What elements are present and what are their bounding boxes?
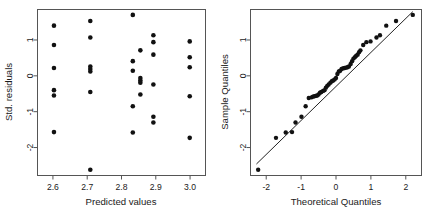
qq-data-point <box>394 19 398 23</box>
qq-y-axis-title: Sample Quantiles <box>219 54 230 130</box>
residuals-data-point <box>151 40 156 45</box>
qq-plot-svg: 10-1-2 -2-1012 Theoretical Quantiles Sam… <box>216 0 432 216</box>
qq-data-points <box>256 13 415 172</box>
qq-plot-frame <box>251 10 422 176</box>
qq-data-point <box>290 130 294 134</box>
residuals-data-point <box>131 104 136 109</box>
residuals-data-point <box>52 23 57 28</box>
residuals-data-point <box>88 35 93 40</box>
residuals-data-point <box>187 55 192 60</box>
residuals-plot-svg: 10-1-2 2.62.72.82.93.0 Predicted values … <box>0 0 216 216</box>
residuals-data-point <box>138 92 143 97</box>
qq-y-axis-ticks: 10-1-2 <box>239 37 251 151</box>
figure-canvas: 10-1-2 2.62.72.82.93.0 Predicted values … <box>0 0 432 216</box>
residuals-data-point <box>151 120 156 125</box>
qq-y-tick-label: -1 <box>239 108 249 116</box>
residuals-x-axis-ticks: 2.62.72.82.93.0 <box>47 176 196 192</box>
residuals-data-point <box>151 82 156 87</box>
residuals-y-tick-label: 1 <box>26 37 36 42</box>
residuals-data-point <box>52 93 57 98</box>
qq-x-tick-label: 0 <box>334 182 339 192</box>
residuals-data-point <box>187 94 192 99</box>
residuals-y-tick-label: -2 <box>26 144 36 152</box>
qq-data-point <box>299 115 303 119</box>
residuals-data-point <box>138 48 143 53</box>
qq-x-axis-ticks: -2-1012 <box>262 176 408 192</box>
residuals-data-point <box>52 43 57 48</box>
residuals-data-point <box>187 39 192 44</box>
qq-data-point <box>364 40 368 44</box>
residuals-data-point <box>131 69 136 74</box>
residuals-data-point <box>52 66 57 71</box>
qq-x-tick-label: -1 <box>297 182 305 192</box>
panel-residuals-vs-fitted: 10-1-2 2.62.72.82.93.0 Predicted values … <box>0 0 216 216</box>
residuals-data-point <box>131 13 136 18</box>
qq-reference-line <box>256 12 412 164</box>
qq-y-tick-label: 0 <box>239 73 249 78</box>
qq-data-point <box>334 76 338 80</box>
qq-y-tick-label: 1 <box>239 37 249 42</box>
residuals-data-point <box>138 80 143 85</box>
qq-data-point <box>303 104 307 108</box>
residuals-data-point <box>131 130 136 135</box>
residuals-x-tick-label: 2.7 <box>81 182 93 192</box>
residuals-data-point <box>151 114 156 119</box>
qq-x-tick-label: 1 <box>369 182 374 192</box>
residuals-x-tick-label: 2.6 <box>47 182 59 192</box>
residuals-data-point <box>52 88 57 93</box>
qq-data-point <box>274 136 278 140</box>
qq-data-point <box>293 120 297 124</box>
residuals-data-point <box>52 130 57 135</box>
qq-x-axis-title: Theoretical Quantiles <box>291 196 382 207</box>
residuals-x-tick-label: 2.9 <box>150 182 162 192</box>
residuals-x-tick-label: 2.8 <box>116 182 128 192</box>
panel-normal-qq: 10-1-2 -2-1012 Theoretical Quantiles Sam… <box>216 0 432 216</box>
qq-y-tick-label: -2 <box>239 144 249 152</box>
residuals-data-points <box>52 13 192 172</box>
qq-data-point <box>411 13 415 17</box>
qq-data-point <box>284 130 288 134</box>
qq-x-tick-label: 2 <box>403 182 408 192</box>
residuals-x-axis-title: Predicted values <box>86 196 157 207</box>
qq-data-point <box>358 48 362 52</box>
residuals-data-point <box>187 136 192 141</box>
residuals-data-point <box>88 69 93 74</box>
residuals-plot-frame <box>38 10 206 176</box>
residuals-x-tick-label: 3.0 <box>184 182 196 192</box>
qq-data-point <box>368 39 372 43</box>
residuals-y-axis-title: Std. residuals <box>3 63 14 121</box>
residuals-y-tick-label: -1 <box>26 108 36 116</box>
residuals-data-point <box>88 90 93 95</box>
residuals-y-axis-ticks: 10-1-2 <box>26 37 38 151</box>
qq-data-point <box>384 23 388 27</box>
residuals-data-point <box>187 65 192 70</box>
residuals-data-point <box>151 52 156 57</box>
qq-x-tick-label: -2 <box>262 182 270 192</box>
residuals-data-point <box>151 33 156 38</box>
residuals-data-point <box>88 19 93 24</box>
qq-reference-line-segment <box>256 12 412 164</box>
residuals-data-point <box>88 167 93 172</box>
residuals-y-tick-label: 0 <box>26 73 36 78</box>
qq-data-point <box>256 168 260 172</box>
residuals-data-point <box>131 59 136 64</box>
qq-data-point <box>378 33 382 37</box>
